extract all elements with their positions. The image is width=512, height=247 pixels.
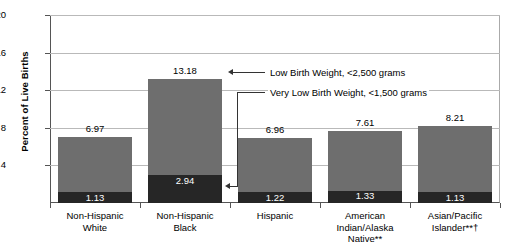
x-axis-category-label: Non-HispanicBlack — [140, 210, 230, 233]
x-axis-category-label-line: Black — [140, 222, 230, 234]
x-tick-mark-5 — [500, 203, 501, 208]
bar-very-low-value-label: 1.13 — [58, 193, 132, 203]
x-tick-mark-2 — [230, 203, 231, 208]
x-axis-category-label-line: Indian/Alaska Native** — [320, 222, 410, 245]
very-low-birth-weight-annotation: Very Low Birth Weight, <1,500 grams — [268, 86, 429, 99]
x-axis-category-label-line: Asian/Pacific — [410, 210, 500, 222]
bar-very-low-value-label: 2.94 — [148, 176, 222, 186]
y-tick-label-20: 20 — [0, 10, 6, 20]
bar-total-value-label: 7.61 — [328, 118, 402, 128]
plot-area: 6.971.1313.182.946.961.227.611.338.211.1… — [50, 15, 500, 203]
y-tick-label-16: 16 — [0, 48, 6, 58]
bar-total-value-label: 6.97 — [58, 124, 132, 134]
bar-total-value-label: 13.18 — [148, 66, 222, 76]
very-low-birth-weight-leader-h — [237, 92, 265, 93]
very-low-birth-weight-leader-tip — [230, 186, 238, 187]
x-axis-category-label-line: American — [320, 210, 410, 222]
bar-total-value-label: 6.96 — [238, 125, 312, 135]
x-axis-category-label: Hispanic — [230, 210, 320, 222]
x-tick-mark-3 — [320, 203, 321, 208]
very-low-birth-weight-arrow — [225, 183, 230, 189]
gridline-16 — [50, 53, 500, 54]
x-axis-category-label: Non-HispanicWhite — [50, 210, 140, 233]
x-axis-category-label-line: Non-Hispanic — [140, 210, 230, 222]
stacked-bar-chart: Percent of Live Births 20 16 12 8 4 6.97… — [0, 0, 512, 247]
x-tick-mark-4 — [410, 203, 411, 208]
x-tick-mark-0 — [50, 203, 51, 208]
x-axis-category-label-line: White — [50, 222, 140, 234]
x-axis-category-label-line: Hispanic — [230, 210, 320, 222]
bar-very-low-value-label: 1.22 — [238, 193, 312, 203]
x-axis-category-label-line: Non-Hispanic — [50, 210, 140, 222]
low-birth-weight-annotation: Low Birth Weight, <2,500 grams — [268, 66, 407, 79]
bar-very-low-value-label: 1.13 — [418, 193, 492, 203]
x-tick-mark-1 — [140, 203, 141, 208]
x-axis-category-label: Asian/PacificIslander**† — [410, 210, 500, 233]
bar-very-low-value-label: 1.33 — [328, 191, 402, 201]
y-tick-label-4: 4 — [0, 160, 6, 170]
bar-total-value-label: 8.21 — [418, 113, 492, 123]
very-low-birth-weight-leader-v — [237, 92, 238, 186]
x-axis-category-label: AmericanIndian/Alaska Native** — [320, 210, 410, 245]
low-birth-weight-leader — [233, 72, 265, 73]
y-axis-title: Percent of Live Births — [19, 22, 30, 182]
y-tick-label-8: 8 — [0, 123, 6, 133]
y-tick-label-12: 12 — [0, 85, 6, 95]
gridline-20 — [50, 15, 500, 16]
x-axis-category-label-line: Islander**† — [410, 222, 500, 234]
